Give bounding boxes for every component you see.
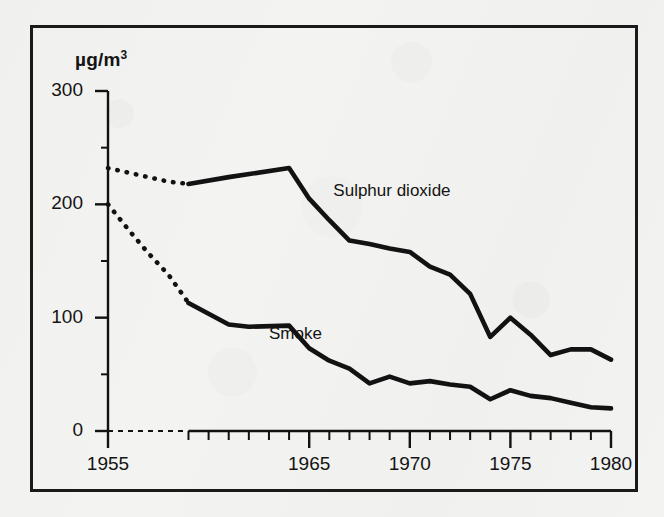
series-annotation-sulphur-dioxide: Sulphur dioxide <box>333 181 450 201</box>
smoke-series-line <box>188 303 611 408</box>
y-axis-tick-label: 100 <box>51 306 83 328</box>
x-axis-tick-label: 1980 <box>571 453 651 475</box>
series-group <box>108 168 611 408</box>
chart-plot-surface: µg/m3 010020030019551965197019751980 Sul… <box>33 28 635 489</box>
x-axis-tick-label: 1965 <box>269 453 349 475</box>
chart-svg <box>33 28 641 495</box>
series-annotation-smoke: Smoke <box>269 324 322 344</box>
y-axis-tick-label: 300 <box>51 79 83 101</box>
smoke-series-estimated-line <box>108 204 188 303</box>
y-axis-tick-label: 0 <box>72 419 83 441</box>
x-axis-tick-label: 1975 <box>470 453 550 475</box>
chart-page: µg/m3 010020030019551965197019751980 Sul… <box>0 0 664 517</box>
chart-frame: µg/m3 010020030019551965197019751980 Sul… <box>30 25 638 492</box>
sulphur-dioxide-series-estimated-line <box>108 168 188 184</box>
x-axis-tick-label: 1970 <box>370 453 450 475</box>
x-axis-tick-label: 1955 <box>68 453 148 475</box>
y-axis-tick-label: 200 <box>51 192 83 214</box>
